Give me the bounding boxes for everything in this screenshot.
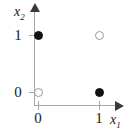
xor-scatter-figure: 1 0 0 1 x2 x1 xyxy=(0,0,132,132)
x-axis-arrowhead-icon xyxy=(115,101,124,111)
data-point-filled-1-0 xyxy=(95,88,104,97)
data-point-filled-0-1 xyxy=(34,31,43,40)
y-axis-title: x2 xyxy=(14,5,25,24)
x-axis-tick-1 xyxy=(99,101,100,110)
y-axis-tick-label-0: 0 xyxy=(10,85,26,100)
data-point-open-0-0 xyxy=(34,88,43,97)
x-axis-tick-label-1: 1 xyxy=(91,111,107,126)
x-axis-tick-label-0: 0 xyxy=(30,111,46,126)
data-point-open-1-1 xyxy=(95,31,104,40)
y-axis-arrowhead-icon xyxy=(30,3,40,12)
x-axis-title-subscript: 1 xyxy=(116,120,121,130)
y-axis-tick-label-1: 1 xyxy=(10,28,26,43)
x-axis-title: x1 xyxy=(110,113,121,132)
x-axis-line xyxy=(34,105,118,106)
x-axis-tick-0 xyxy=(38,101,39,110)
y-axis-title-subscript: 2 xyxy=(20,12,25,22)
